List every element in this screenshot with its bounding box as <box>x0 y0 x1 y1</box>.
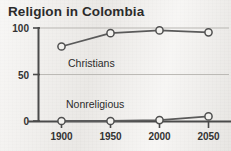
y-tick-label-100: 100 <box>12 23 29 34</box>
y-tick-label-50: 50 <box>18 70 30 81</box>
series-christians-line <box>62 30 209 46</box>
series-christians-point-1900 <box>58 43 65 50</box>
series-nonreligious-point-1900 <box>58 117 65 124</box>
series-label-nonreligious: Nonreligious <box>66 98 124 110</box>
x-tick-label-1900: 1900 <box>50 131 73 142</box>
chart-plot-area: 100 50 0 1900 1950 2000 2050 <box>0 0 231 151</box>
series-nonreligious-point-2050 <box>205 113 212 120</box>
x-tick-label-2000: 2000 <box>148 131 171 142</box>
series-christians <box>58 27 212 50</box>
x-tick-label-2050: 2050 <box>197 131 220 142</box>
x-tick-label-1950: 1950 <box>99 131 122 142</box>
series-christians-point-2000 <box>156 27 163 34</box>
series-nonreligious <box>58 113 212 125</box>
series-nonreligious-point-1950 <box>107 117 114 124</box>
religion-in-colombia-line-chart: Religion in Colombia 100 50 0 1900 1950 <box>0 0 231 151</box>
y-axis <box>33 27 40 122</box>
series-label-christians: Christians <box>68 57 115 69</box>
series-nonreligious-point-2000 <box>156 117 163 124</box>
gridlines <box>38 28 229 75</box>
series-christians-point-1950 <box>107 30 114 37</box>
series-nonreligious-line <box>62 116 209 121</box>
series-christians-point-2050 <box>205 29 212 36</box>
